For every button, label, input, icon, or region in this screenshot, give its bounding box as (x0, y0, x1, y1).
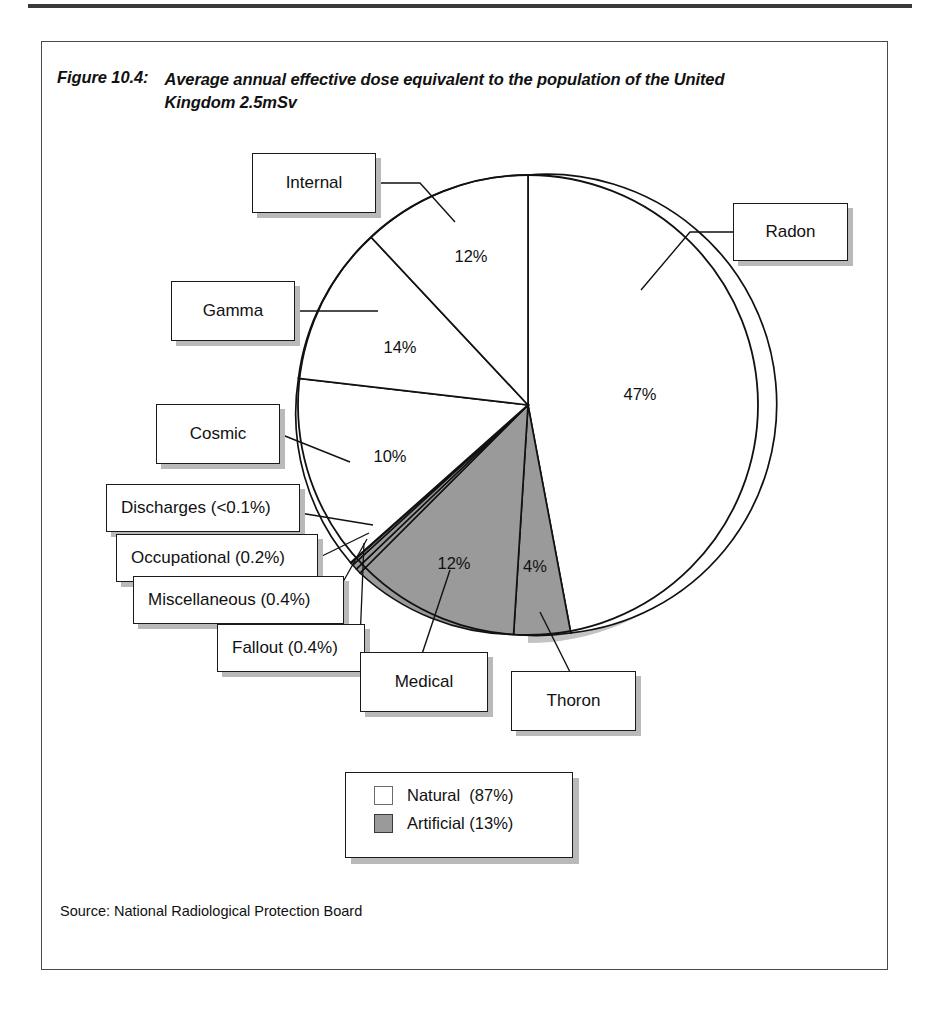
callout-internal[interactable]: Internal (252, 153, 376, 213)
slice-pct-thoron: 4% (523, 557, 547, 575)
slice-pct-internal: 12% (454, 247, 487, 265)
callout-cosmic[interactable]: Cosmic (156, 404, 280, 464)
callout-thoron[interactable]: Thoron (511, 671, 636, 731)
legend-item-natural[interactable]: Natural (87%) (374, 786, 572, 805)
chart-legend: Natural (87%) Artificial (13%) (345, 772, 573, 858)
callout-fallout[interactable]: Fallout (0.4%) (217, 624, 365, 672)
legend-label-artificial: Artificial (13%) (407, 814, 513, 833)
callout-medical[interactable]: Medical (360, 652, 488, 712)
callout-discharges[interactable]: Discharges (<0.1%) (106, 484, 300, 532)
slice-pct-radon: 47% (623, 385, 656, 403)
slice-pct-cosmic: 10% (373, 447, 406, 465)
slice-pct-medical: 12% (437, 554, 470, 572)
slice-pct-gamma: 14% (383, 338, 416, 356)
source-note: Source: National Radiological Protection… (60, 903, 362, 919)
callout-radon[interactable]: Radon (733, 203, 848, 261)
legend-label-natural: Natural (87%) (407, 786, 513, 805)
legend-swatch-artificial (374, 814, 393, 833)
legend-swatch-natural (374, 786, 393, 805)
legend-item-artificial[interactable]: Artificial (13%) (374, 814, 572, 833)
figure-root: Figure 10.4:Average annual effective dos… (0, 0, 925, 1014)
callout-occupational[interactable]: Occupational (0.2%) (116, 534, 318, 582)
callout-miscellaneous[interactable]: Miscellaneous (0.4%) (133, 576, 344, 624)
callout-gamma[interactable]: Gamma (171, 281, 295, 341)
